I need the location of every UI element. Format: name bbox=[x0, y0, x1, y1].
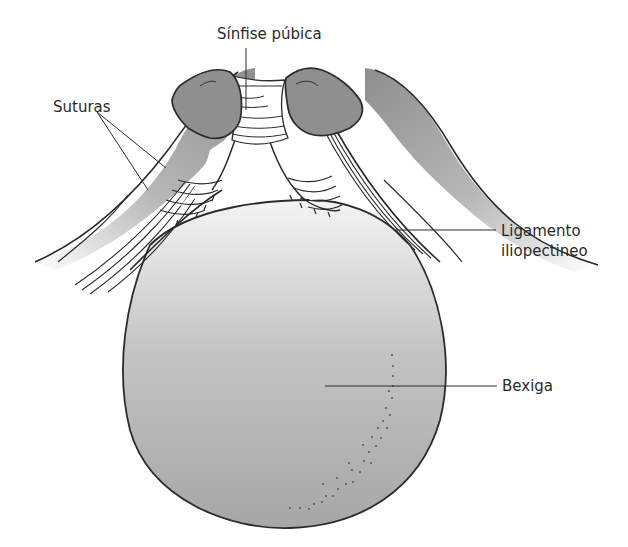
diagram-illustration bbox=[0, 0, 628, 547]
label-pubic-symphysis: Sínfise púbica bbox=[217, 25, 322, 43]
label-ligament-line1: Ligamento bbox=[501, 222, 581, 240]
left-pubic-bone bbox=[172, 70, 242, 139]
bladder bbox=[123, 200, 446, 528]
label-bladder: Bexiga bbox=[502, 377, 553, 395]
label-ligament-line2: iliopectineo bbox=[501, 242, 588, 260]
right-pubic-bone bbox=[285, 68, 362, 136]
diagram-canvas: Sínfise púbica Suturas Ligamento iliopec… bbox=[0, 0, 628, 547]
sutures-leader-line-2 bbox=[97, 112, 148, 190]
label-sutures: Suturas bbox=[53, 98, 111, 116]
sutures-leader-line-1 bbox=[97, 112, 166, 168]
